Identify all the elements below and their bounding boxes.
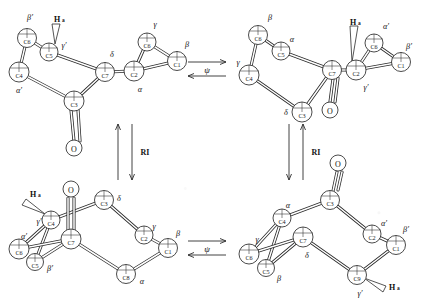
atom-label: C1 bbox=[164, 248, 171, 255]
atom-label: C5 bbox=[277, 51, 284, 58]
atom-label: C2 bbox=[368, 234, 375, 241]
hydrogen-subscript: a bbox=[62, 17, 65, 23]
atom-label: C5 bbox=[262, 268, 269, 275]
ring-inversion-arrows-right: RI bbox=[287, 124, 321, 180]
oxygen-label: O bbox=[71, 145, 77, 154]
atom-label: C6 bbox=[245, 254, 252, 261]
panel-top-right: C6 C5 C4 C3 C7 C2 C6 C1 bbox=[236, 13, 412, 123]
greek-label: β bbox=[276, 274, 282, 283]
wedge-bond-h-bottom-left bbox=[22, 199, 45, 214]
atom-label: C3 bbox=[298, 112, 305, 119]
greek-label: α′ bbox=[383, 22, 389, 31]
greek-label: α bbox=[140, 277, 145, 286]
greek-label: β′ bbox=[402, 225, 409, 234]
atom-C5-top-right: C5 bbox=[272, 42, 290, 60]
atom-C1-bottom-right: C1 bbox=[387, 236, 406, 255]
atom-label: C2 bbox=[352, 70, 359, 77]
atom-label: C7 bbox=[328, 70, 335, 77]
greek-label: β′ bbox=[26, 13, 33, 22]
hydrogen-label-bottom-left: H a bbox=[30, 190, 41, 199]
atom-C6-top-right: C6 bbox=[249, 26, 268, 45]
hydrogen-letter: H bbox=[54, 15, 61, 24]
atom-C5-top-left: C5 bbox=[40, 43, 58, 61]
atom-C7-top-left: C7 bbox=[96, 62, 115, 82]
atom-label: C6 bbox=[15, 249, 22, 256]
atom-C1-top-right: C1 bbox=[392, 52, 411, 72]
hydrogen-letter: H bbox=[389, 283, 396, 292]
carbonyl-oxygen-top-right: O bbox=[322, 102, 338, 118]
wedge-bond-h-top-right bbox=[350, 26, 358, 62]
atom-label: C7 bbox=[67, 239, 74, 246]
atom-label: C8 bbox=[122, 274, 129, 281]
hydrogen-label-top-left: H a bbox=[54, 15, 65, 24]
psi-label-bottom: ψ bbox=[204, 244, 210, 254]
greek-label: β′ bbox=[46, 264, 53, 273]
atom-C1-top-left: C1 bbox=[168, 51, 187, 71]
hydrogen-subscript: a bbox=[358, 20, 361, 26]
ring-inversion-arrows-left: RI bbox=[116, 124, 150, 180]
atom-C5-bottom-right: C5 bbox=[258, 260, 275, 277]
panel-bottom-right: C4 C6 C5 C7 C3 C2 C9 C1 bbox=[239, 155, 409, 298]
atom-label: C3 bbox=[326, 200, 333, 207]
atom-C7-bottom-right: C7 bbox=[293, 227, 313, 247]
atom-C6-bottom-left: C6 bbox=[9, 239, 29, 259]
atom-label: C6 bbox=[370, 43, 377, 50]
atom-label: C1 bbox=[173, 61, 180, 68]
atom-C4-top-left: C4 bbox=[9, 62, 29, 82]
atom-C1-bottom-left: C1 bbox=[159, 239, 178, 258]
ring-inversion-label-left: RI bbox=[141, 148, 150, 157]
atom-label: C3 bbox=[100, 200, 107, 207]
atom-label: C9 bbox=[353, 275, 360, 282]
greek-label: γ bbox=[236, 58, 240, 67]
greek-label: γ bbox=[152, 222, 156, 231]
atom-label: C4 bbox=[15, 72, 22, 79]
atom-label: C5 bbox=[45, 52, 52, 59]
psi-arrows-top: ψ bbox=[188, 60, 226, 79]
atom-label: C5 bbox=[31, 262, 38, 269]
atom-label: C7 bbox=[101, 72, 108, 79]
greek-label: γ bbox=[153, 20, 157, 29]
atom-label: C6 bbox=[254, 35, 261, 42]
atom-C2-top-right: C2 bbox=[346, 60, 366, 80]
psi-arrows-bottom: ψ bbox=[188, 239, 226, 258]
greek-label: δ bbox=[305, 251, 309, 260]
atom-C4-bottom-right: C4 bbox=[273, 209, 291, 227]
atom-C2-top-left: C2 bbox=[124, 61, 144, 81]
hydrogen-subscript: a bbox=[38, 192, 41, 198]
atom-C3-bottom-right: C3 bbox=[321, 191, 340, 210]
oxygen-label: O bbox=[335, 160, 341, 169]
greek-label: α′ bbox=[21, 232, 27, 241]
atom-label: C6 bbox=[23, 38, 30, 45]
carbonyl-oxygen-bottom-right: O bbox=[330, 155, 346, 171]
atom-C6b-top-left: C6 bbox=[138, 33, 156, 51]
greek-label: γ′ bbox=[61, 41, 66, 50]
greek-label: β bbox=[184, 40, 190, 49]
atom-C2-bottom-left: C2 bbox=[135, 226, 153, 244]
greek-label: β′ bbox=[405, 42, 412, 51]
atom-label: C2 bbox=[130, 71, 137, 78]
greek-label: γ′ bbox=[357, 289, 362, 298]
conformational-scheme-figure: C6 C5 C4 C3 C7 C2 C6 C1 bbox=[0, 0, 421, 304]
oxygen-label: O bbox=[327, 107, 333, 116]
atom-C4-top-right: C4 bbox=[239, 65, 259, 85]
atom-label: C4 bbox=[47, 220, 54, 227]
hydrogen-letter: H bbox=[350, 18, 357, 27]
atom-C6b-top-right: C6 bbox=[365, 34, 383, 52]
bond-network-bottom-right bbox=[249, 172, 396, 275]
psi-label-top: ψ bbox=[204, 65, 210, 75]
atom-C3-top-right: C3 bbox=[292, 102, 312, 122]
greek-label: α′ bbox=[16, 86, 22, 95]
hydrogen-label-bottom-right: H a bbox=[389, 283, 400, 292]
atom-label: C1 bbox=[392, 245, 399, 252]
carbonyl-oxygen-top-left: O bbox=[66, 140, 82, 156]
atom-label: C1 bbox=[397, 62, 404, 69]
atom-C2-bottom-right: C2 bbox=[363, 225, 381, 243]
greek-label: α bbox=[290, 35, 295, 44]
greek-label: δ bbox=[110, 50, 114, 59]
greek-label: α′ bbox=[381, 219, 387, 228]
hydrogen-label-top-right: H a bbox=[350, 18, 361, 27]
atom-label: C2 bbox=[140, 235, 147, 242]
atom-label: C6 bbox=[143, 42, 150, 49]
atom-C9-bottom-right: C9 bbox=[348, 266, 367, 285]
atom-C6-top-left: C6 bbox=[18, 29, 37, 48]
